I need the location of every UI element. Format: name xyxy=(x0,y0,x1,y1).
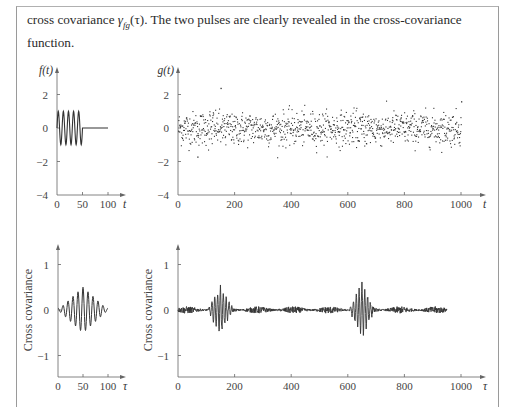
data-point xyxy=(403,127,404,128)
data-point xyxy=(192,123,193,124)
data-point xyxy=(217,118,218,119)
y-tick-label: −1 xyxy=(37,350,49,362)
data-point xyxy=(415,150,416,151)
data-point xyxy=(252,133,253,134)
data-point xyxy=(190,144,191,145)
data-point xyxy=(231,124,232,125)
data-point xyxy=(298,131,299,132)
data-point xyxy=(442,124,443,125)
data-point xyxy=(379,127,380,128)
data-point xyxy=(270,137,271,138)
data-point xyxy=(267,140,268,141)
data-point xyxy=(426,130,427,131)
data-point xyxy=(384,129,385,130)
data-point xyxy=(390,134,391,135)
data-point xyxy=(321,127,322,128)
data-point xyxy=(219,131,220,132)
data-point xyxy=(351,121,352,122)
data-point xyxy=(182,126,183,127)
data-point xyxy=(247,147,248,148)
data-point xyxy=(421,134,422,135)
data-point xyxy=(428,130,429,131)
data-point xyxy=(188,123,189,124)
data-point xyxy=(235,127,236,128)
data-point xyxy=(434,130,435,131)
data-point xyxy=(253,142,254,143)
data-point xyxy=(259,129,260,130)
data-point xyxy=(312,134,313,135)
data-point xyxy=(250,116,251,117)
data-point xyxy=(399,129,400,130)
data-point xyxy=(340,115,341,116)
data-point xyxy=(273,116,274,117)
data-point xyxy=(213,112,214,113)
data-point xyxy=(234,143,235,144)
data-point xyxy=(238,144,239,145)
data-point xyxy=(268,146,269,147)
data-point xyxy=(383,124,384,125)
data-point xyxy=(420,129,421,130)
data-point xyxy=(367,134,368,135)
data-point xyxy=(282,126,283,127)
data-point xyxy=(206,135,207,136)
data-point xyxy=(405,140,406,141)
data-point xyxy=(204,135,205,136)
data-point xyxy=(323,115,324,116)
data-point xyxy=(331,128,332,129)
data-point xyxy=(371,130,372,131)
data-point xyxy=(245,123,246,124)
data-point xyxy=(377,133,378,134)
data-point xyxy=(223,115,224,116)
data-point xyxy=(315,138,316,139)
data-point xyxy=(187,119,188,120)
data-point xyxy=(290,130,291,131)
data-point xyxy=(302,121,303,122)
data-point xyxy=(451,127,452,128)
data-point xyxy=(197,123,198,124)
data-point xyxy=(348,127,349,128)
data-point xyxy=(299,128,300,129)
data-point xyxy=(341,110,342,111)
data-point xyxy=(298,122,299,123)
data-point xyxy=(364,146,365,147)
data-point xyxy=(204,141,205,142)
data-point xyxy=(261,136,262,137)
data-point xyxy=(202,129,203,130)
data-point xyxy=(404,112,405,113)
data-point xyxy=(189,139,190,140)
data-point xyxy=(372,121,373,122)
data-point xyxy=(320,125,321,126)
data-point xyxy=(368,130,369,131)
data-point xyxy=(460,131,461,132)
data-point xyxy=(451,120,452,121)
data-point xyxy=(200,134,201,135)
data-point xyxy=(226,123,227,124)
data-point xyxy=(272,119,273,120)
data-point xyxy=(271,128,272,129)
data-point xyxy=(281,139,282,140)
data-point xyxy=(283,131,284,132)
data-point xyxy=(363,114,364,115)
data-point xyxy=(234,129,235,130)
data-point xyxy=(363,131,364,132)
data-point xyxy=(373,119,374,120)
data-point xyxy=(181,126,182,127)
data-point xyxy=(316,146,317,147)
data-point xyxy=(194,139,195,140)
x-tick-label: 0 xyxy=(175,380,181,390)
data-point xyxy=(277,157,278,158)
data-point xyxy=(223,135,224,136)
data-point xyxy=(318,136,319,137)
data-point xyxy=(320,140,321,141)
data-point xyxy=(185,123,186,124)
y-tick-label: −2 xyxy=(157,156,169,168)
data-point xyxy=(290,128,291,129)
data-point xyxy=(335,130,336,131)
data-point xyxy=(300,124,301,125)
data-point xyxy=(255,119,256,120)
data-point xyxy=(289,121,290,122)
data-point xyxy=(441,118,442,119)
data-point xyxy=(380,137,381,138)
data-point xyxy=(458,127,459,128)
data-point xyxy=(357,137,358,138)
